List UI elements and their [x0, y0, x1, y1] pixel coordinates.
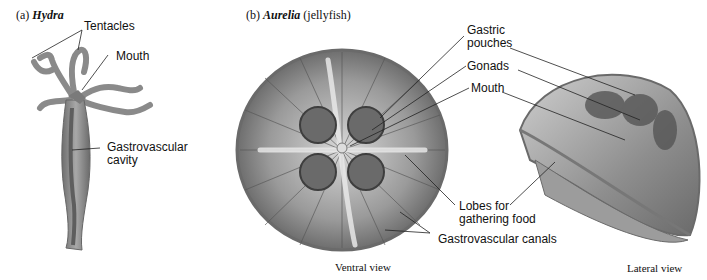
- caption-ventral: Ventral view: [335, 261, 391, 273]
- label-mouth-hydra: Mouth: [116, 50, 149, 63]
- panel-a-title: (a) Hydra: [16, 8, 64, 23]
- figure: (a) Hydra (b) Aurelia (jellyfish) Tentac…: [0, 0, 707, 280]
- label-mouth-aurelia: Mouth: [471, 82, 504, 95]
- label-gonads: Gonads: [467, 60, 509, 73]
- aurelia-ventral: [237, 50, 447, 250]
- caption-lateral: Lateral view: [627, 262, 682, 274]
- aurelia-lateral: [520, 75, 700, 242]
- label-gastrovascular-cavity: Gastrovascularcavity: [107, 141, 188, 167]
- label-lobes: Lobes forgathering food: [459, 200, 536, 226]
- label-gastric-pouches: Gastricpouches: [467, 24, 512, 50]
- panel-b-title: (b) Aurelia (jellyfish): [246, 8, 351, 23]
- label-tentacles: Tentacles: [84, 20, 135, 33]
- label-gastrovascular-canals: Gastrovascular canals: [438, 233, 557, 246]
